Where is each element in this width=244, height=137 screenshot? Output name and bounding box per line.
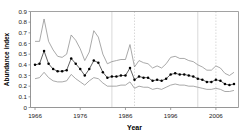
x-tick-label-2: 1986 [119,112,133,119]
data-point-marker [106,76,109,79]
data-point-marker [215,79,218,82]
data-point-marker [102,71,105,74]
data-point-marker [88,68,91,71]
data-point-marker [206,81,209,84]
x-tick-label-3: 1996 [164,112,178,119]
data-point-marker [84,74,87,77]
data-point-marker [65,69,68,72]
y-tick-label-1: 0.1 [18,93,27,100]
data-point-marker [111,75,114,78]
data-point-marker [56,70,59,73]
data-point-marker [201,79,204,82]
data-point-marker [97,61,100,64]
y-tick-label-4: 0.4 [18,61,27,68]
plot-area: 00.10.20.30.40.50.60.70.80.9196619761986… [0,0,244,137]
x-axis-title: Year [127,124,142,131]
data-point-marker [34,64,37,67]
y-tick-label-6: 0.6 [18,40,27,47]
data-point-marker [124,74,127,77]
y-tick-label-8: 0.8 [18,18,27,25]
data-point-marker [183,73,186,76]
data-point-marker [138,75,141,78]
data-point-marker [228,84,231,87]
x-tick-label-4: 2006 [209,112,223,119]
data-point-marker [133,79,136,82]
data-point-marker [74,63,77,66]
y-tick-label-3: 0.3 [18,72,27,79]
data-point-marker [224,83,227,86]
data-point-marker [165,77,168,80]
data-point-marker [188,74,191,77]
data-point-marker [197,77,200,80]
data-point-marker [210,81,213,84]
x-tick-label-0: 1966 [28,112,42,119]
data-point-marker [129,67,132,70]
y-tick-label-9: 0.9 [18,8,27,15]
y-tick-label-0: 0 [24,104,28,111]
data-point-marker [47,63,50,66]
y-axis-title: Abundance index [3,32,10,86]
data-point-marker [151,80,154,83]
data-point-marker [52,68,55,71]
data-point-marker [93,59,96,62]
data-point-marker [174,72,177,75]
x-tick-label-1: 1976 [73,112,87,119]
data-point-marker [147,76,150,79]
y-tick-label-5: 0.5 [18,50,27,57]
data-point-marker [160,80,163,83]
data-point-marker [219,80,222,83]
data-point-marker [115,75,118,78]
data-point-marker [61,70,64,73]
y-tick-label-2: 0.2 [18,82,27,89]
data-point-marker [70,57,73,60]
y-tick-label-7: 0.7 [18,29,27,36]
data-point-marker [178,73,181,76]
data-point-marker [156,79,159,82]
data-point-marker [120,74,123,77]
chart-figure: 00.10.20.30.40.50.60.70.80.9196619761986… [0,0,244,137]
abundance-index-line-chart: 00.10.20.30.40.50.60.70.80.9196619761986… [0,0,244,137]
data-point-marker [233,83,236,86]
data-point-marker [142,76,145,79]
data-point-marker [79,68,82,71]
data-point-marker [192,75,195,78]
data-point-marker [43,50,46,53]
data-point-marker [38,63,41,66]
data-point-marker [169,73,172,76]
